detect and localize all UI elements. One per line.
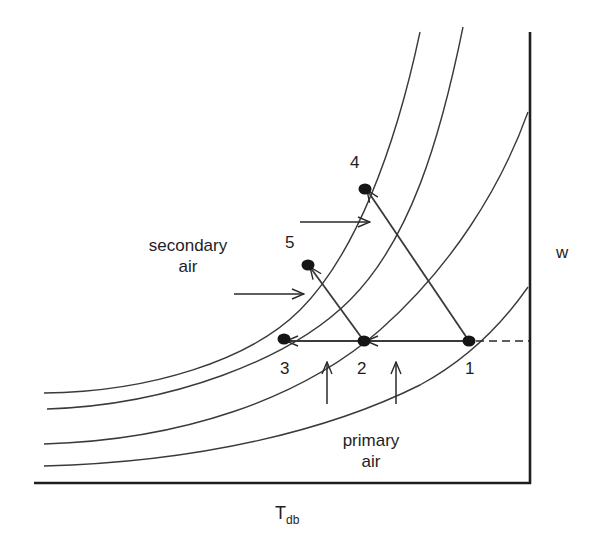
state-point-2 bbox=[358, 336, 371, 347]
state-point-4 bbox=[359, 184, 372, 195]
process-line-1-to-4 bbox=[367, 190, 469, 341]
point-label-5: 5 bbox=[285, 234, 294, 251]
secondary-air-line1: secondary bbox=[133, 237, 243, 254]
x-axis-label: Tdb bbox=[275, 504, 299, 522]
secondary-air-label: secondary air bbox=[133, 237, 243, 275]
x-axis-label-subscript: db bbox=[286, 513, 299, 527]
state-point-5 bbox=[302, 260, 315, 271]
state-point-3 bbox=[278, 334, 291, 345]
y-axis-label: w bbox=[556, 244, 568, 261]
primary-air-label: primary air bbox=[326, 432, 416, 470]
primary-air-line1: primary bbox=[326, 432, 416, 449]
curve-2 bbox=[47, 27, 463, 409]
point-label-1: 1 bbox=[465, 360, 474, 377]
airflow-arrows bbox=[234, 222, 396, 404]
x-axis-label-main: T bbox=[275, 503, 286, 523]
axes bbox=[34, 32, 531, 484]
point-label-4: 4 bbox=[350, 154, 359, 171]
process-line-2-to-5 bbox=[310, 267, 364, 341]
point-label-3: 3 bbox=[280, 360, 289, 377]
curve-3 bbox=[44, 112, 528, 444]
state-point-1 bbox=[463, 336, 476, 347]
psychrometric-diagram bbox=[0, 0, 597, 553]
secondary-air-line2: air bbox=[133, 258, 243, 275]
primary-air-line2: air bbox=[326, 453, 416, 470]
point-label-2: 2 bbox=[357, 360, 366, 377]
state-points bbox=[278, 184, 476, 347]
